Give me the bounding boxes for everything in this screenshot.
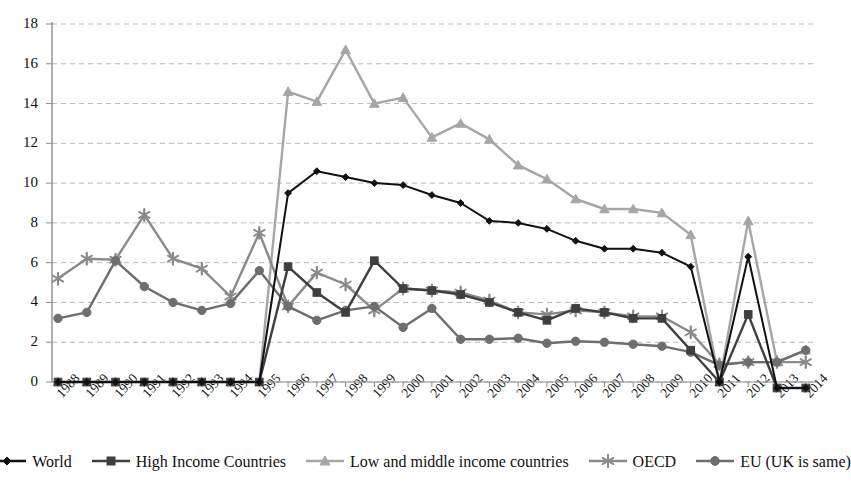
legend-label: OECD: [633, 453, 677, 470]
legend-swatch-circle-icon: [694, 454, 736, 468]
legend-item-low-and-middle-income-countries[interactable]: Low and middle income countries: [304, 453, 569, 470]
chart-legend: WorldHigh Income CountriesLow and middle…: [0, 446, 837, 476]
legend-label: World: [32, 453, 72, 470]
legend-swatch-square-icon: [90, 454, 132, 468]
series-low-and-middle-income-countries: [53, 45, 810, 386]
legend-item-eu-uk-is-same[interactable]: EU (UK is same): [694, 453, 851, 470]
legend-swatch-star-icon: [587, 454, 629, 468]
legend-item-world[interactable]: World: [0, 453, 72, 470]
legend-label: High Income Countries: [136, 453, 286, 470]
legend-item-high-income-countries[interactable]: High Income Countries: [90, 453, 286, 470]
legend-label: EU (UK is same): [740, 453, 851, 470]
series-world: [55, 168, 810, 392]
legend-swatch-diamond-icon: [0, 454, 28, 468]
legend-item-oecd[interactable]: OECD: [587, 453, 677, 470]
legend-label: Low and middle income countries: [350, 453, 569, 470]
series-eu-uk-is-same: [54, 256, 810, 369]
series-high-income-countries: [54, 257, 809, 392]
gridlines: [46, 24, 817, 382]
legend-swatch-triangle-icon: [304, 454, 346, 468]
